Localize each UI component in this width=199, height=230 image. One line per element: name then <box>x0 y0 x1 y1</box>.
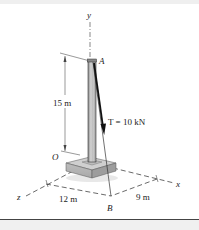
tension-arrowhead <box>101 124 107 136</box>
point-a-label: A <box>98 56 105 66</box>
origin-label: O <box>52 152 59 162</box>
dist-z-label: 12 m <box>59 194 77 204</box>
x-axis-label: x <box>175 179 180 189</box>
height-label: 15 m <box>53 98 71 108</box>
dist-x-label: 9 m <box>136 192 150 202</box>
point-b-label: B <box>107 203 113 213</box>
statics-diagram: y A 15 m T = 10 kN O z x 12 m 9 m B <box>0 0 199 219</box>
z-axis-label: z <box>16 192 21 202</box>
footer-band <box>0 219 199 230</box>
y-axis-label: y <box>86 10 91 20</box>
tension-label: T = 10 kN <box>108 117 146 127</box>
